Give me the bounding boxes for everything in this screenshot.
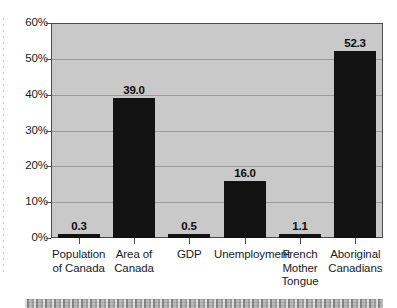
y-axis-tick-label: 50% [0, 53, 48, 64]
y-axis-tick-label: 40% [0, 89, 48, 100]
x-axis-category-label-line: Unemployment [214, 248, 275, 262]
y-axis-tick-label: 30% [0, 125, 48, 136]
x-axis-category-label-line: Population [48, 248, 109, 262]
x-axis-category-label-line: Tongue [269, 275, 330, 289]
bar-value-label: 52.3 [320, 37, 390, 49]
y-axis-tick-mark [46, 131, 51, 132]
bar [113, 98, 155, 238]
x-axis-tick-mark [245, 238, 246, 244]
bar [58, 234, 100, 238]
x-axis-category-label-line: of Canada [48, 262, 109, 276]
y-axis-tick-labels: 60%50%40%30%20%10%0% [0, 0, 48, 308]
x-axis-tick-mark [79, 238, 80, 244]
gridline [52, 202, 382, 203]
gridline [52, 59, 382, 60]
bottom-photo-texture-band [25, 299, 383, 308]
gridline [52, 131, 382, 132]
bar-value-label: 16.0 [210, 167, 280, 179]
x-axis-category-label: AboriginalCanadians [325, 248, 386, 275]
x-axis-category-label-line: French [269, 248, 330, 262]
x-axis-category-label-line: GDP [159, 248, 220, 262]
y-axis-tick-label: 20% [0, 160, 48, 171]
bar-value-label: 39.0 [99, 84, 169, 96]
x-axis-tick-mark [300, 238, 301, 244]
x-axis-category-label: Populationof Canada [48, 248, 109, 275]
bar [279, 234, 321, 238]
x-axis-category-label-line: Mother [269, 262, 330, 276]
y-axis-tick-mark [46, 238, 51, 239]
y-axis-tick-label: 10% [0, 196, 48, 207]
x-axis-tick-mark [134, 238, 135, 244]
y-axis-tick-label: 0% [0, 232, 48, 243]
x-axis-tick-mark [189, 238, 190, 244]
y-axis-tick-mark [46, 95, 51, 96]
x-axis-category-label-line: Canada [103, 262, 164, 276]
bar [168, 234, 210, 238]
x-axis-category-label-line: Canadians [325, 262, 386, 276]
x-axis-tick-mark [355, 238, 356, 244]
x-axis-category-label-line: Aboriginal [325, 248, 386, 262]
x-axis-category-label: Area ofCanada [103, 248, 164, 275]
y-axis-tick-mark [46, 166, 51, 167]
y-axis-tick-mark [46, 23, 51, 24]
x-axis-category-label: FrenchMotherTongue [269, 248, 330, 289]
x-axis-category-label: Unemployment [214, 248, 275, 262]
bar-chart-figure: 60%50%40%30%20%10%0% Populationof Canada… [0, 0, 397, 308]
y-axis-tick-label: 60% [0, 17, 48, 28]
x-axis-category-label-line: Area of [103, 248, 164, 262]
bar [224, 181, 266, 238]
bar [334, 51, 376, 238]
y-axis-tick-mark [46, 59, 51, 60]
x-axis-category-label: GDP [159, 248, 220, 262]
y-axis-tick-mark [46, 202, 51, 203]
bar-value-label: 0.5 [154, 220, 224, 232]
bar-value-label: 0.3 [44, 220, 114, 232]
bar-value-label: 1.1 [265, 220, 335, 232]
